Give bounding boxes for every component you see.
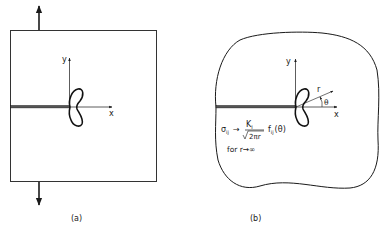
angle-label: θ — [324, 98, 329, 107]
x-axis-label: x — [109, 109, 114, 118]
y-axis-label: y — [286, 57, 291, 66]
figure-b: y r θ x σij → KI 2πr fij(θ) for r→∞ (b) — [215, 32, 378, 223]
svg-text:→: → — [233, 125, 240, 134]
caption-b: (b) — [250, 214, 261, 223]
svg-text:2πr: 2πr — [249, 133, 261, 141]
crack — [11, 106, 70, 108]
body-boundary — [215, 32, 378, 188]
svg-text:KI: KI — [246, 120, 253, 130]
angle-arc — [320, 97, 322, 107]
y-axis-label: y — [62, 55, 67, 64]
caption-a: (a) — [71, 214, 82, 223]
crack — [216, 106, 295, 108]
svg-text:fij(θ): fij(θ) — [268, 125, 286, 136]
radius-label: r — [317, 85, 321, 94]
svg-text:for r→∞: for r→∞ — [227, 145, 255, 154]
plastic-zone-icon — [69, 89, 82, 126]
crack-tip-diagram: y x (a) y r θ x σij → KI 2πr fij(θ) — [0, 0, 382, 233]
asymptotic-stress-formula: σij → KI 2πr fij(θ) for r→∞ — [221, 120, 286, 154]
plastic-zone-icon — [295, 89, 308, 126]
figure-a: y x (a) — [11, 6, 157, 223]
x-axis-label: x — [334, 110, 339, 119]
svg-text:σij: σij — [221, 125, 229, 136]
